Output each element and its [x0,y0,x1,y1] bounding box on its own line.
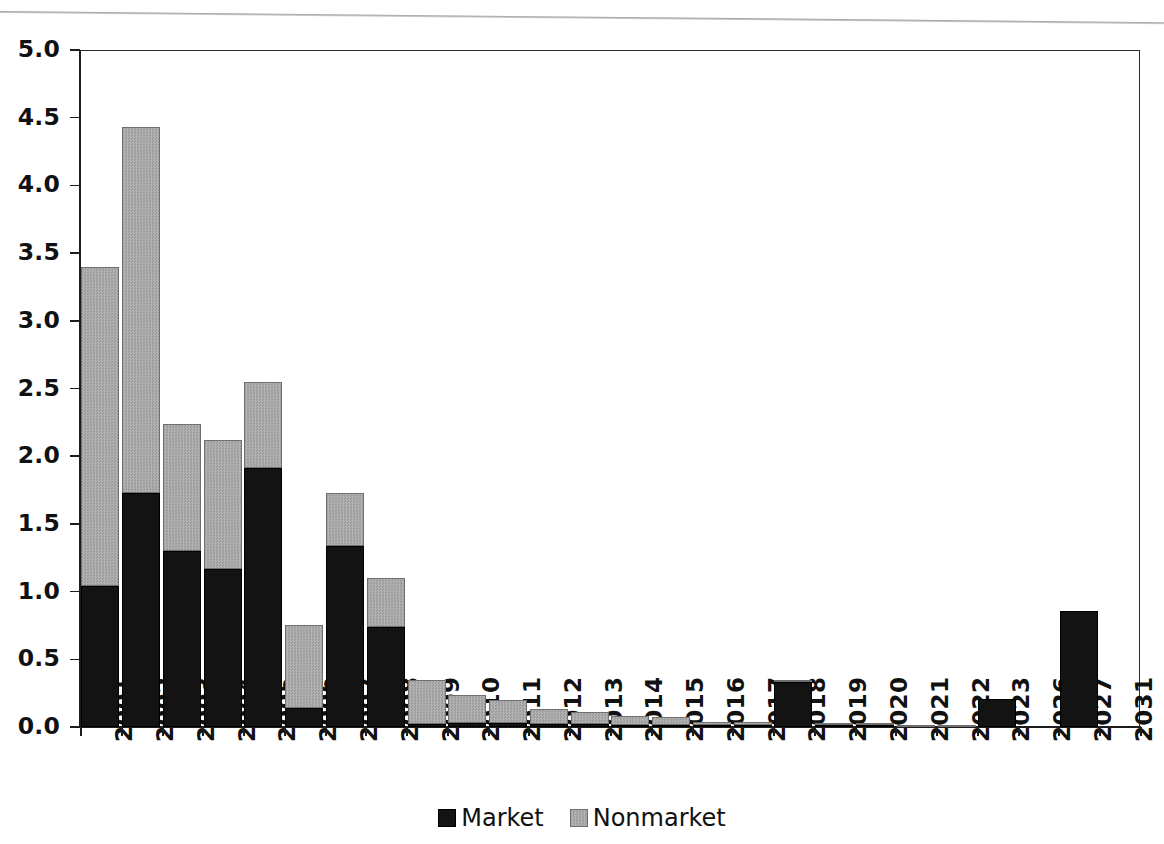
bar-segment-market [408,724,446,727]
bar-segment-market [285,708,323,727]
bar-2006[interactable] [285,625,323,727]
chart-legend: Market Nonmarket [0,806,1164,830]
bar-2023[interactable] [978,699,1016,727]
bar-2007[interactable] [326,493,364,727]
bar-2016[interactable] [693,723,731,727]
bar-segment-nonmarket [408,680,446,725]
nonmarket-swatch-icon [570,809,588,827]
bar-segment-nonmarket [897,725,935,727]
bar-segment-nonmarket [815,723,853,725]
bar-segment-nonmarket [285,625,323,708]
bar-segment-market [652,725,690,727]
bar-segment-market [774,682,812,727]
bar-segment-market [815,725,853,727]
legend-item-market[interactable]: Market [438,806,544,830]
bar-segment-nonmarket [774,680,812,682]
bar-segment-market [367,627,405,727]
bar-segment-market [611,725,649,727]
bar-2008[interactable] [367,578,405,727]
bar-2012[interactable] [530,709,568,727]
bar-2005[interactable] [244,382,282,727]
bar-2009[interactable] [408,680,446,727]
bar-2011[interactable] [489,700,527,727]
bar-2019[interactable] [815,724,853,727]
bar-chart-figure: 0.00.51.01.52.02.53.03.54.04.55.0 200120… [0,0,1164,844]
bar-segment-nonmarket [693,722,731,725]
legend-label-market: Market [461,806,544,830]
bar-segment-market [244,468,282,727]
bar-2017[interactable] [734,723,772,727]
bar-segment-market [693,725,731,727]
bar-segment-nonmarket [367,578,405,627]
bar-segment-market [448,723,486,727]
bar-segment-nonmarket [938,725,976,727]
bar-segment-market [122,493,160,727]
bar-2004[interactable] [204,440,242,727]
bar-segment-nonmarket [611,716,649,725]
legend-item-nonmarket[interactable]: Nonmarket [570,806,726,830]
bar-2018[interactable] [774,681,812,727]
bar-segment-market [856,725,894,727]
bar-segment-nonmarket [326,493,364,546]
market-swatch-icon [438,809,456,827]
bar-segment-market [571,724,609,727]
bar-segment-nonmarket [122,127,160,493]
bar-2020[interactable] [856,724,894,727]
bar-segment-nonmarket [734,722,772,725]
bar-segment-market [326,546,364,727]
bar-segment-nonmarket [448,695,486,723]
bar-segment-nonmarket [856,723,894,725]
legend-label-nonmarket: Nonmarket [593,806,726,830]
bar-segment-market [204,569,242,727]
bar-segment-market [1060,611,1098,727]
bar-segment-market [530,724,568,727]
bar-segment-nonmarket [652,717,690,725]
bar-2022[interactable] [938,726,976,727]
bar-2027[interactable] [1060,611,1098,727]
bar-segment-market [734,725,772,727]
bar-segment-nonmarket [571,712,609,724]
bar-segment-nonmarket [244,382,282,469]
bar-2015[interactable] [652,718,690,727]
bar-segment-market [978,699,1016,727]
bar-2003[interactable] [163,424,201,727]
bars-layer [0,0,1164,844]
bar-segment-nonmarket [163,424,201,551]
bar-2013[interactable] [571,712,609,727]
bar-2014[interactable] [611,716,649,727]
bar-segment-nonmarket [204,440,242,569]
bar-segment-nonmarket [81,267,119,587]
bar-2021[interactable] [897,726,935,727]
bar-2001[interactable] [81,267,119,727]
bar-segment-market [81,586,119,727]
bar-segment-nonmarket [489,700,527,723]
bar-segment-nonmarket [530,709,568,724]
bar-segment-market [489,723,527,727]
bar-2002[interactable] [122,127,160,727]
bar-2010[interactable] [448,695,486,727]
bar-segment-market [163,551,201,727]
